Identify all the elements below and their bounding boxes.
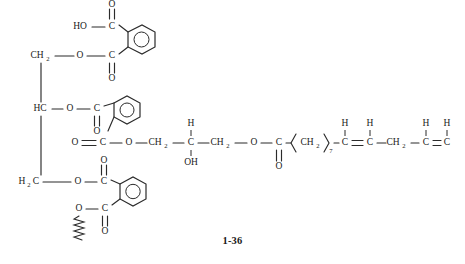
alkene-carbon-4: C [444,137,450,147]
figure-canvas: HO C O CH 2 O C O [0,0,465,264]
alkene-hydrogen-4: H [444,118,451,128]
chain-terminus-group: C H [433,118,451,147]
figure-caption: 1-36 [0,235,465,246]
chain-terminus-layer: C H [0,0,465,264]
